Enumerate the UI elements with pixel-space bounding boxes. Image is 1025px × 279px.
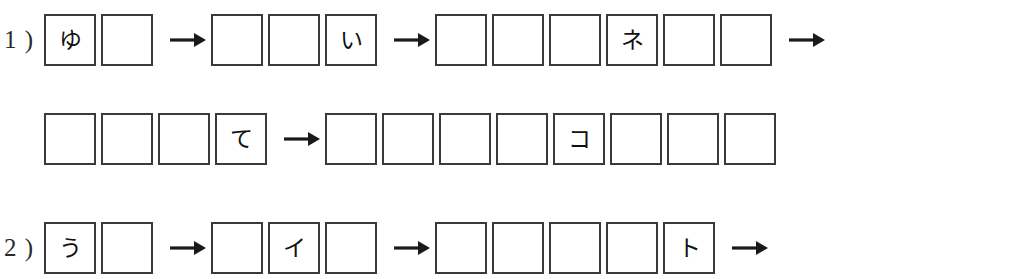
empty-cell[interactable] xyxy=(158,113,210,165)
filled-cell[interactable]: コ xyxy=(553,113,605,165)
empty-cell[interactable] xyxy=(549,14,601,66)
filled-cell[interactable]: て xyxy=(215,113,267,165)
worksheet-page: 1 )ゆいネてコ2 )うイト xyxy=(0,0,1025,279)
arrow-icon xyxy=(165,239,211,257)
empty-cell[interactable] xyxy=(211,14,263,66)
filled-cell[interactable]: う xyxy=(44,222,96,274)
empty-cell[interactable] xyxy=(663,14,715,66)
arrow-icon xyxy=(165,31,211,49)
arrow-icon xyxy=(389,31,435,49)
cell-group: う xyxy=(44,222,153,274)
cell-group: ゆ xyxy=(44,14,153,66)
empty-cell[interactable] xyxy=(435,222,487,274)
empty-cell[interactable] xyxy=(549,222,601,274)
cell-group: て xyxy=(44,113,267,165)
empty-cell[interactable] xyxy=(492,14,544,66)
filled-cell[interactable]: イ xyxy=(268,222,320,274)
row-number-label: 2 ) xyxy=(0,234,44,262)
empty-cell[interactable] xyxy=(101,14,153,66)
cell-group: コ xyxy=(325,113,776,165)
arrow-icon xyxy=(389,239,435,257)
arrow-icon xyxy=(279,130,325,148)
empty-cell[interactable] xyxy=(101,222,153,274)
empty-cell[interactable] xyxy=(211,222,263,274)
empty-cell[interactable] xyxy=(325,113,377,165)
empty-cell[interactable] xyxy=(382,113,434,165)
empty-cell[interactable] xyxy=(496,113,548,165)
sequence-row: 1 )ゆいネ xyxy=(0,14,830,66)
arrow-icon xyxy=(727,239,773,257)
row-number-label: 1 ) xyxy=(0,26,44,54)
cell-group: イ xyxy=(211,222,377,274)
empty-cell[interactable] xyxy=(268,14,320,66)
filled-cell[interactable]: ゆ xyxy=(44,14,96,66)
empty-cell[interactable] xyxy=(439,113,491,165)
cell-group: い xyxy=(211,14,377,66)
empty-cell[interactable] xyxy=(492,222,544,274)
empty-cell[interactable] xyxy=(667,113,719,165)
cell-group: ト xyxy=(435,222,715,274)
empty-cell[interactable] xyxy=(101,113,153,165)
empty-cell[interactable] xyxy=(606,222,658,274)
sequence-row: 2 )うイト xyxy=(0,222,773,274)
empty-cell[interactable] xyxy=(325,222,377,274)
empty-cell[interactable] xyxy=(435,14,487,66)
empty-cell[interactable] xyxy=(44,113,96,165)
empty-cell[interactable] xyxy=(720,14,772,66)
filled-cell[interactable]: ト xyxy=(663,222,715,274)
empty-cell[interactable] xyxy=(610,113,662,165)
filled-cell[interactable]: ネ xyxy=(606,14,658,66)
filled-cell[interactable]: い xyxy=(325,14,377,66)
arrow-icon xyxy=(784,31,830,49)
cell-group: ネ xyxy=(435,14,772,66)
empty-cell[interactable] xyxy=(724,113,776,165)
sequence-row: てコ xyxy=(0,113,776,165)
